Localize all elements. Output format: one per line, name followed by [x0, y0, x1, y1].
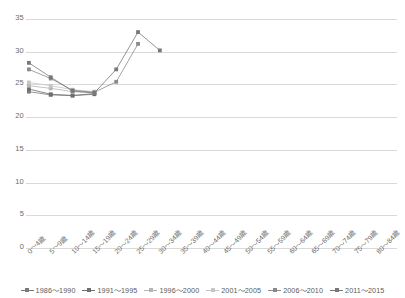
data-point-marker — [136, 30, 140, 34]
legend-marker-icon — [82, 286, 95, 295]
legend-label: 2011～2015 — [345, 286, 384, 295]
legend-marker-icon — [268, 286, 281, 295]
legend-label: 1996～2000 — [159, 286, 199, 295]
data-point-marker — [71, 89, 75, 93]
legend-item[interactable]: 2011～2015 — [330, 286, 384, 295]
data-point-marker — [49, 84, 53, 88]
legend-label: 1991～1995 — [97, 286, 137, 295]
y-axis: 05101520253035 — [0, 0, 24, 262]
data-point-marker — [27, 61, 31, 65]
x-axis: 0～4歳5～9歳10～14歳15～19歳20～24歳25～29歳30～34歳35… — [26, 248, 397, 284]
data-point-marker — [114, 80, 118, 84]
legend-item[interactable]: 1996～2000 — [144, 286, 199, 295]
legend-item[interactable]: 2001～2005 — [206, 286, 261, 295]
legend-label: 1986～1990 — [36, 286, 76, 295]
series-layer — [26, 0, 397, 262]
data-point-marker — [49, 92, 53, 96]
legend-marker-icon — [330, 286, 343, 295]
legend-marker-icon — [206, 286, 219, 295]
data-point-marker — [27, 84, 31, 88]
data-point-marker — [49, 75, 53, 79]
series-line — [29, 32, 160, 93]
legend-label: 2001～2005 — [221, 286, 261, 295]
y-tick-label: 10 — [0, 178, 24, 186]
y-tick-label: 35 — [0, 14, 24, 22]
series-5 — [27, 42, 140, 94]
data-point-marker — [158, 49, 162, 53]
data-point-marker — [136, 42, 140, 46]
legend-item[interactable]: 1991～1995 — [82, 286, 137, 295]
y-tick-label: 0 — [0, 243, 24, 251]
data-point-marker — [71, 94, 75, 98]
data-point-marker — [114, 67, 118, 71]
data-point-marker — [27, 81, 31, 85]
y-tick-label: 30 — [0, 47, 24, 55]
data-point-marker — [92, 91, 96, 95]
legend-item[interactable]: 2006～2010 — [268, 286, 323, 295]
data-point-marker — [27, 87, 31, 91]
data-point-marker — [27, 67, 31, 71]
line-chart: 05101520253035 0～4歳5～9歳10～14歳15～19歳20～24… — [0, 0, 405, 298]
chart-legend: 1986～19901991～19951996～20002001～20052006… — [0, 283, 405, 297]
legend-label: 2006～2010 — [283, 286, 323, 295]
legend-item[interactable]: 1986～1990 — [21, 286, 76, 295]
legend-marker-icon — [21, 286, 34, 295]
y-tick-label: 20 — [0, 112, 24, 120]
plot-area: 05101520253035 — [0, 0, 405, 262]
y-tick-label: 15 — [0, 145, 24, 153]
y-tick-label: 5 — [0, 210, 24, 218]
legend-marker-icon — [144, 286, 157, 295]
y-tick-label: 25 — [0, 79, 24, 87]
